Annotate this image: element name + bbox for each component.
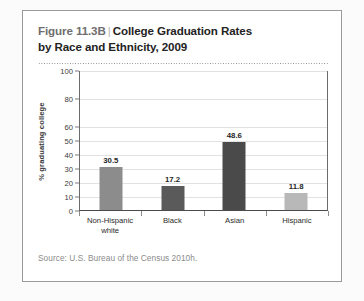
bar-value-label: 11.8 xyxy=(289,182,304,191)
figure-title-line1: College Graduation Rates xyxy=(113,24,252,37)
bar-value-label: 17.2 xyxy=(165,175,180,184)
y-axis-title: % graduating college xyxy=(34,71,48,211)
x-axis-category-label-line: Hispanic xyxy=(282,216,311,225)
x-axis-tick-mark xyxy=(328,211,329,216)
x-axis-category-label: Hispanic xyxy=(266,216,328,235)
y-axis-title-text: % graduating college xyxy=(37,102,46,180)
bar-value-label: 30.5 xyxy=(103,156,118,165)
figure-inner: Figure 11.3B|College Graduation Rates by… xyxy=(23,11,341,281)
x-axis-category-label: Non-Hispanicwhite xyxy=(79,216,141,235)
x-axis-category-label-line: Non-Hispanic xyxy=(87,216,133,225)
bar xyxy=(285,193,308,210)
y-axis-tick-label: 20 xyxy=(65,179,73,188)
bar-slot: 30.5 xyxy=(80,71,142,210)
x-axis-category-label: Asian xyxy=(204,216,266,235)
figure-title-line2: by Race and Ethnicity, 2009 xyxy=(38,40,187,53)
bar-value-label: 48.6 xyxy=(227,131,242,140)
y-axis-tick-label: 0 xyxy=(69,207,73,216)
bar-slot: 48.6 xyxy=(204,71,266,210)
bar xyxy=(161,186,184,210)
bar-slot: 17.2 xyxy=(142,71,204,210)
figure-page: Figure 11.3B|College Graduation Rates by… xyxy=(0,0,364,301)
figure-card: Figure 11.3B|College Graduation Rates by… xyxy=(22,10,342,282)
y-axis-tick-label: 100 xyxy=(60,67,73,76)
x-axis-category-label: Black xyxy=(141,216,203,235)
y-axis-tick-labels: 010203040506080100 xyxy=(51,71,75,211)
source-note: Source: U.S. Bureau of the Census 2010h. xyxy=(38,253,197,263)
y-axis-tick-label: 10 xyxy=(65,193,73,202)
bar xyxy=(99,167,122,210)
y-axis-tick-label: 80 xyxy=(65,95,73,104)
x-axis-category-label-line: Black xyxy=(163,216,182,225)
plot-area: 30.517.248.611.8 xyxy=(79,71,328,211)
x-axis-category-label-line: white xyxy=(101,226,119,235)
y-axis-tick-label: 40 xyxy=(65,151,73,160)
figure-number: Figure 11.3B xyxy=(38,24,106,37)
y-axis-tick-label: 50 xyxy=(65,137,73,146)
y-axis-tick-label: 30 xyxy=(65,165,73,174)
y-axis-tick-label: 60 xyxy=(65,123,73,132)
figure-title: Figure 11.3B|College Graduation Rates by… xyxy=(38,23,328,54)
x-axis-category-label-line: Asian xyxy=(225,216,244,225)
chart-area: % graduating college 010203040506080100 … xyxy=(38,71,328,239)
title-separator: | xyxy=(106,24,113,37)
title-divider xyxy=(38,63,328,64)
x-axis-category-labels: Non-HispanicwhiteBlackAsianHispanic xyxy=(79,216,328,235)
bar-series: 30.517.248.611.8 xyxy=(80,71,327,210)
bar-slot: 11.8 xyxy=(265,71,327,210)
bar xyxy=(223,142,246,210)
